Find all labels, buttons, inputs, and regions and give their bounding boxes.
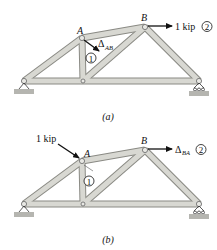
- displacement-symbol: Δ: [98, 38, 105, 49]
- displacement-subscript: AB: [104, 44, 113, 51]
- member-circle-number: 1: [89, 54, 94, 64]
- caption-b: (b): [102, 234, 114, 246]
- joint-a-label: A: [83, 148, 91, 159]
- truss-members-b: [14, 147, 209, 219]
- load-circle-number: 2: [205, 22, 210, 32]
- joint-b-label: B: [141, 135, 147, 146]
- disp-circle-number: 2: [199, 145, 204, 155]
- displacement-arrow-icon: [84, 40, 99, 51]
- member-circle-number: 1: [87, 177, 92, 187]
- displacement-symbol: Δ: [175, 144, 182, 155]
- load-arrow-icon: [58, 144, 79, 158]
- caption-a: (a): [102, 111, 114, 123]
- truss-members-a: [14, 24, 209, 96]
- joint-b-label: B: [141, 12, 147, 23]
- displacement-subscript: BA: [182, 149, 190, 156]
- joint-a-label: A: [76, 25, 84, 36]
- truss-a: A B 1 kip 2 Δ AB 1 (a): [14, 12, 212, 123]
- truss-figure: A B 1 kip 2 Δ AB 1 (a) A B 1 kip Δ BA 2 …: [0, 0, 217, 250]
- load-label: 1 kip: [175, 21, 195, 32]
- truss-b: A B 1 kip Δ BA 2 1 (b): [14, 133, 209, 246]
- load-label: 1 kip: [36, 133, 56, 144]
